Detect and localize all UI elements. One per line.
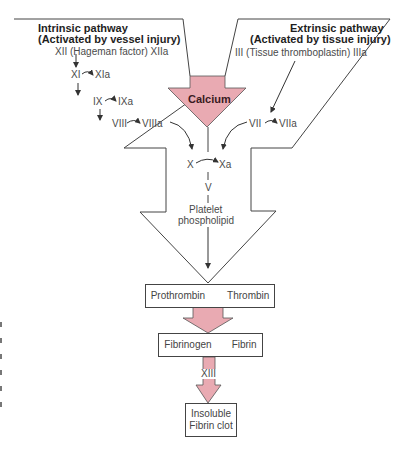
factor-x: X [187, 160, 194, 170]
factor-xi: XI [71, 70, 80, 80]
thrombin-label: Thrombin [227, 290, 269, 302]
fibrin-clot-box: Insoluble Fibrin clot [185, 403, 237, 437]
platelet-label: Platelet [189, 205, 222, 215]
prothrombin-box: Prothrombin Thrombin [145, 284, 275, 308]
curl-xi [82, 72, 93, 75]
factor-iii-label: III (Tissue thromboplastin) [235, 47, 350, 58]
coagulation-diagram [0, 0, 412, 452]
factor-viii: VIII [112, 119, 127, 129]
extrinsic-subtitle: (Activated by tissue injury) [250, 33, 391, 45]
curl-ix [105, 99, 116, 102]
factor-iii: III (Tissue thromboplastin) IIIa [235, 48, 367, 58]
phospholipid-label: phospholipid [178, 216, 234, 226]
factor-ixa: IXa [118, 97, 133, 107]
factor-ix: IX [93, 97, 102, 107]
pathway-funnel-outline [14, 19, 390, 283]
fibrin-label: Fibrin [232, 339, 257, 351]
calcium-label: Calcium [188, 93, 231, 105]
factor-viiia: VIIIa [142, 119, 163, 129]
factor-xa: Xa [219, 160, 231, 170]
margin-marks [0, 322, 4, 418]
factor-xiia-label: XIIa [151, 46, 169, 57]
arrow-iii-vii [271, 61, 295, 112]
curl-x [196, 159, 218, 163]
factor-xiii-label: XIII [200, 369, 217, 379]
xiii-arrow [196, 357, 221, 403]
clot-line1: Insoluble [191, 408, 231, 420]
fibrinogen-box: Fibrinogen Fibrin [158, 333, 263, 357]
intrinsic-subtitle: (Activated by vessel injury) [38, 33, 180, 45]
arrow-viia-x [223, 122, 247, 149]
clot-line2: Fibrin clot [189, 420, 232, 432]
curl-viii [127, 121, 140, 124]
fibrinogen-label: Fibrinogen [164, 339, 211, 351]
thrombin-arrow [183, 307, 233, 333]
prothrombin-label: Prothrombin [151, 290, 205, 302]
factor-viia: VIIa [279, 119, 297, 129]
factor-v: V [205, 183, 212, 193]
factor-vii: VII [249, 119, 261, 129]
curl-vii [265, 121, 277, 124]
factor-xii-label: XII (Hageman factor) [55, 46, 148, 57]
arrow-viiia-x [170, 122, 192, 149]
factor-xii: XII (Hageman factor) XIIa [55, 47, 168, 57]
factor-iiia-label: IIIa [353, 47, 367, 58]
factor-xia: XIa [95, 70, 110, 80]
